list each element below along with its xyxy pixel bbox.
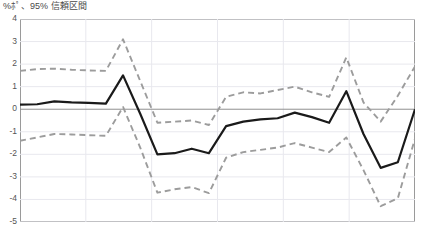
y-axis-tick-0: 0 — [12, 104, 17, 113]
vertical-gridlines — [86, 19, 349, 222]
y-axis-tick-neg5: -5 — [9, 217, 17, 226]
y-axis-tick-4: 4 — [12, 14, 17, 23]
y-axis-tick-neg4: -4 — [9, 194, 17, 203]
y-axis-tick-neg3: -3 — [9, 172, 17, 181]
y-axis-tick-neg1: -1 — [9, 127, 17, 136]
y-axis-tick-3: 3 — [12, 37, 17, 46]
y-axis-tick-2: 2 — [12, 59, 17, 68]
chart-plot — [20, 19, 415, 222]
y-axis-tick-neg2: -2 — [9, 149, 17, 158]
y-axis-tick-1: 1 — [12, 82, 17, 91]
y-axis-tick-labels: 43210-1-2-3-4-5 — [0, 0, 20, 228]
chart-container: %ﾎﾟ、95% 信頼区間 43210-1-2-3-4-5 — [0, 0, 421, 228]
